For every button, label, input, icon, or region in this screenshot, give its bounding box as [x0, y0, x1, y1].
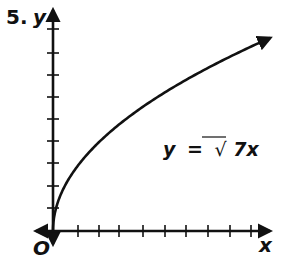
problem-number: 5. [6, 5, 28, 29]
equation-lhs: y [163, 138, 177, 160]
equation-label: y = √ 7x [163, 137, 260, 160]
x-axis-label: x [258, 233, 273, 257]
graph: 5. y x O y = √ 7x [0, 0, 290, 273]
y-axis-label: y [33, 5, 47, 29]
function-curve [53, 38, 270, 231]
origin-label: O [33, 236, 50, 260]
svg-text:y = √ 7x: y = √ 7x [163, 138, 260, 160]
equation-radicand: 7x [233, 138, 259, 160]
equation-equals: = [187, 138, 203, 160]
radical-sign: √ [215, 138, 228, 160]
